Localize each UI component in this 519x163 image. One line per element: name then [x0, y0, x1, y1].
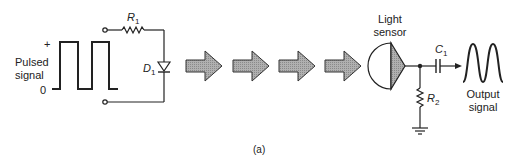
light-arrow-2-icon	[233, 51, 269, 81]
light-arrow-3-icon	[279, 51, 315, 81]
output-signal-waveform	[463, 44, 503, 82]
output-arrowhead-icon	[455, 63, 462, 69]
circuit-drawing	[0, 0, 519, 163]
light-arrow-4-icon	[325, 51, 361, 81]
light-sensor-label-line2: sensor	[368, 26, 412, 38]
light-arrow-1-icon	[186, 51, 222, 81]
input-terminal-bottom	[103, 100, 107, 104]
figure-caption: (a)	[253, 144, 265, 156]
zero-marker: 0	[40, 84, 46, 96]
capacitor-c1-icon	[436, 59, 440, 73]
led-light-sensor-diagram: + Pulsed signal 0 R1 D1 Light sensor C1 …	[0, 0, 519, 163]
output-label-line1: Output	[462, 88, 504, 100]
r1-label: R1	[127, 11, 139, 28]
plus-marker: +	[44, 38, 50, 50]
output-label-line2: signal	[462, 101, 504, 113]
r2-label: R2	[427, 92, 439, 109]
d1-label: D1	[143, 62, 155, 79]
input-pulse-waveform	[52, 42, 118, 89]
ground-icon	[412, 128, 428, 134]
light-sensor-icon	[368, 43, 405, 89]
diode-d1-icon	[158, 62, 170, 72]
pulsed-label-line1: Pulsed	[15, 56, 49, 68]
pulsed-label-line2: signal	[15, 69, 44, 81]
light-sensor-label-line1: Light	[370, 13, 410, 25]
c1-label: C1	[435, 43, 447, 60]
input-terminal-top	[103, 28, 107, 32]
resistor-r2-icon	[417, 88, 423, 107]
